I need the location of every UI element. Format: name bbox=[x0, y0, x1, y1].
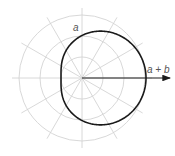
grid-radial-line bbox=[21, 78, 82, 113]
polar-diagram: a a + b bbox=[0, 0, 175, 156]
grid-radial-line bbox=[47, 78, 82, 139]
grid-radial-line bbox=[82, 17, 117, 78]
grid-radial-line bbox=[82, 78, 117, 139]
grid-radial-line bbox=[82, 43, 143, 78]
grid-radial-line bbox=[21, 43, 82, 78]
label-a-plus-b: a + b bbox=[147, 64, 170, 75]
label-a: a bbox=[73, 22, 79, 33]
grid-radial-line bbox=[82, 78, 143, 113]
